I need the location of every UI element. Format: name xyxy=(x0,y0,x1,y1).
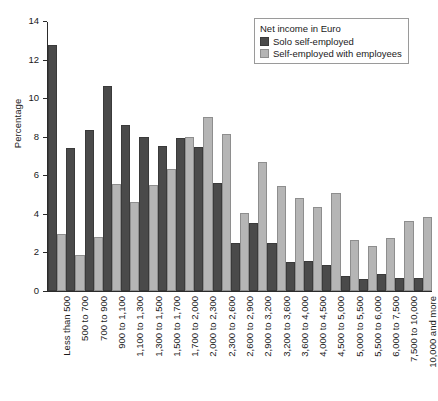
bar-group xyxy=(121,22,139,291)
bar-solo-self-employed xyxy=(213,183,222,291)
y-axis-tick-label: 6 xyxy=(34,169,39,180)
y-axis-tick-label: 12 xyxy=(28,54,39,65)
bar-group xyxy=(48,22,66,291)
legend-label-employees: Self-employed with employees xyxy=(273,48,402,59)
bar-solo-self-employed xyxy=(414,278,423,291)
x-axis-label-cell: 3,200 to 3,600 xyxy=(267,296,285,400)
bar-self-employed-with-employees xyxy=(185,137,194,291)
x-axis-label-cell: 900 to 1,100 xyxy=(103,296,121,400)
bar-solo-self-employed xyxy=(85,130,94,291)
bar-solo-self-employed xyxy=(377,274,386,291)
bar-chart: Percentage 02468101214 Less than 500500 … xyxy=(0,0,438,401)
x-axis-label-cell: 3,600 to 4,000 xyxy=(286,296,304,400)
x-axis-label-cell: 700 to 900 xyxy=(85,296,103,400)
bar-self-employed-with-employees xyxy=(295,198,304,291)
bar-self-employed-with-employees xyxy=(368,246,377,291)
y-axis-tick: 0 xyxy=(43,291,47,292)
bar-group xyxy=(158,22,176,291)
bar-self-employed-with-employees xyxy=(94,237,103,291)
y-axis-tick: 12 xyxy=(43,60,47,61)
y-axis-tick-label: 0 xyxy=(34,285,39,296)
bar-group xyxy=(176,22,194,291)
legend-item-solo: Solo self-employed xyxy=(260,36,402,47)
y-axis-tick: 14 xyxy=(43,21,47,22)
legend-swatch-employees-icon xyxy=(260,49,269,58)
x-axis-line xyxy=(47,291,432,292)
bar-self-employed-with-employees xyxy=(149,185,158,291)
bar-solo-self-employed xyxy=(267,243,276,291)
y-axis-tick: 8 xyxy=(43,137,47,138)
legend-item-employees: Self-employed with employees xyxy=(260,48,402,59)
x-axis-labels: Less than 500500 to 700700 to 900900 to … xyxy=(48,296,432,400)
y-axis-tick: 10 xyxy=(43,98,47,99)
legend: Net income in Euro Solo self-employed Se… xyxy=(254,18,409,64)
y-axis-label: Percentage xyxy=(12,74,23,174)
x-axis-label-cell: 7,500 to 10,000 xyxy=(395,296,413,400)
bar-self-employed-with-employees xyxy=(130,202,139,291)
bar-solo-self-employed xyxy=(395,278,404,291)
bar-group xyxy=(414,22,432,291)
bar-solo-self-employed xyxy=(121,125,130,291)
bar-self-employed-with-employees xyxy=(240,213,249,291)
bar-self-employed-with-employees xyxy=(313,207,322,291)
bar-group xyxy=(66,22,84,291)
y-axis-tick: 4 xyxy=(43,214,47,215)
x-axis-label-cell: 2,300 to 2,600 xyxy=(213,296,231,400)
bar-self-employed-with-employees xyxy=(277,186,286,291)
x-axis-tick-label: 10,000 and more xyxy=(427,296,438,368)
bar-self-employed-with-employees xyxy=(386,238,395,291)
bar-group xyxy=(139,22,157,291)
bar-solo-self-employed xyxy=(231,243,240,291)
bar-self-employed-with-employees xyxy=(222,134,231,291)
bar-solo-self-employed xyxy=(158,146,167,291)
legend-label-solo: Solo self-employed xyxy=(273,36,354,47)
x-axis-label-cell: 1,500 to 1,700 xyxy=(158,296,176,400)
bar-self-employed-with-employees xyxy=(404,221,413,291)
y-axis-tick: 6 xyxy=(43,175,47,176)
x-axis-label-cell: 1,700 to 2,000 xyxy=(176,296,194,400)
y-axis-tick-label: 2 xyxy=(34,246,39,257)
x-axis-label-cell: 4,500 to 5,000 xyxy=(322,296,340,400)
x-axis-label-cell: 2,600 to 2,900 xyxy=(231,296,249,400)
bar-solo-self-employed xyxy=(66,148,75,291)
bar-solo-self-employed xyxy=(249,223,258,291)
bar-self-employed-with-employees xyxy=(331,193,340,291)
x-axis-label-cell: 2,900 to 3,200 xyxy=(249,296,267,400)
bar-solo-self-employed xyxy=(359,279,368,291)
x-axis-label-cell: 5,500 to 6,000 xyxy=(359,296,377,400)
bar-group xyxy=(213,22,231,291)
x-axis-label-cell: 6,000 to 7,500 xyxy=(377,296,395,400)
bar-group xyxy=(194,22,212,291)
bar-solo-self-employed xyxy=(341,276,350,291)
x-axis-label-cell: 4,000 to 4,500 xyxy=(304,296,322,400)
x-axis-label-cell: 10,000 and more xyxy=(414,296,432,400)
bar-group xyxy=(231,22,249,291)
bar-self-employed-with-employees xyxy=(75,255,84,291)
bar-self-employed-with-employees xyxy=(423,217,432,291)
y-axis-tick-label: 8 xyxy=(34,131,39,142)
y-axis-tick: 2 xyxy=(43,252,47,253)
bar-self-employed-with-employees xyxy=(112,184,121,291)
bar-solo-self-employed xyxy=(176,138,185,291)
bar-group xyxy=(85,22,103,291)
bar-self-employed-with-employees xyxy=(350,240,359,291)
bar-self-employed-with-employees xyxy=(57,234,66,291)
y-axis-tick-label: 4 xyxy=(34,208,39,219)
bar-solo-self-employed xyxy=(139,137,148,291)
bar-solo-self-employed xyxy=(286,262,295,291)
bar-group xyxy=(103,22,121,291)
y-axis-tick-label: 10 xyxy=(28,92,39,103)
bar-solo-self-employed xyxy=(194,147,203,291)
bar-solo-self-employed xyxy=(304,261,313,291)
x-axis-label-cell: 500 to 700 xyxy=(66,296,84,400)
bar-self-employed-with-employees xyxy=(167,169,176,291)
legend-title: Net income in Euro xyxy=(260,23,402,34)
x-axis-label-cell: Less than 500 xyxy=(48,296,66,400)
bar-solo-self-employed xyxy=(103,86,112,291)
bar-solo-self-employed xyxy=(322,265,331,291)
x-axis-label-cell: 2,000 to 2,300 xyxy=(194,296,212,400)
bar-self-employed-with-employees xyxy=(203,117,212,291)
x-axis-label-cell: 1,100 to 1,300 xyxy=(121,296,139,400)
legend-swatch-solo-icon xyxy=(260,37,269,46)
x-axis-label-cell: 5,000 to 5,500 xyxy=(341,296,359,400)
